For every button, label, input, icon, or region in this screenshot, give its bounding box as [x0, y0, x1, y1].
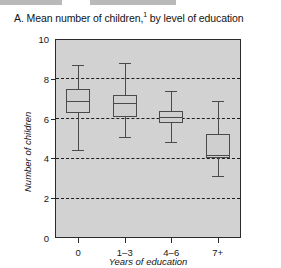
- gridline: [56, 78, 240, 79]
- x-axis-tick-mark: [78, 238, 79, 243]
- y-axis-tick-mark: [51, 198, 55, 199]
- x-axis-tick-mark: [171, 238, 172, 243]
- y-axis-tick-mark: [51, 119, 55, 120]
- whisker-cap: [119, 137, 131, 138]
- whisker-cap: [165, 91, 177, 92]
- median-line: [206, 155, 230, 156]
- y-axis-tick-label: 2: [29, 193, 49, 204]
- y-axis-tick-label: 6: [29, 113, 49, 124]
- y-axis-tick-label: 8: [29, 73, 49, 84]
- y-axis-tick-mark: [51, 79, 55, 80]
- median-line: [66, 101, 90, 102]
- figure-panel-a: A. Mean number of children,1 by level of…: [0, 0, 281, 268]
- chart-boxplot: Number of children 0246810 01–34–67+ Yea…: [0, 0, 281, 268]
- y-axis-tick-label: 0: [29, 233, 49, 244]
- box: [113, 95, 137, 117]
- y-axis-tick-mark: [51, 158, 55, 159]
- median-line: [159, 117, 183, 118]
- y-axis-tick-label: 4: [29, 153, 49, 164]
- whisker-cap: [72, 150, 84, 151]
- x-axis-tick-mark: [218, 238, 219, 243]
- whisker-cap: [212, 101, 224, 102]
- whisker-cap: [119, 63, 131, 64]
- x-axis-title: Years of education: [58, 256, 238, 267]
- gridline: [56, 118, 240, 119]
- whisker-cap: [212, 176, 224, 177]
- x-axis-tick-mark: [125, 238, 126, 243]
- gridline: [56, 198, 240, 199]
- median-line: [113, 103, 137, 104]
- whisker-cap: [72, 65, 84, 66]
- y-axis-tick-label: 10: [29, 34, 49, 45]
- whisker-cap: [165, 142, 177, 143]
